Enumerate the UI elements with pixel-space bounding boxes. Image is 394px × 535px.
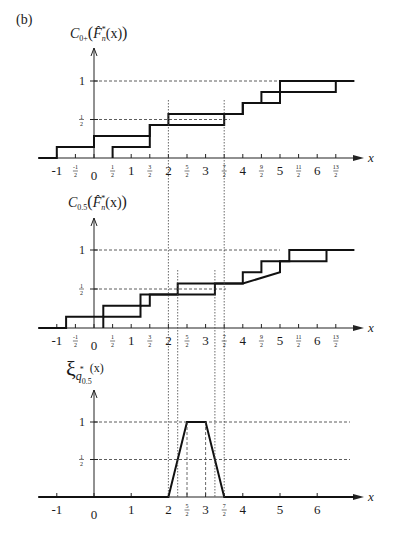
svg-text:2: 2	[111, 342, 114, 348]
x-tick-label: 13	[333, 164, 339, 170]
figure: x112-1-1201213225237249251126132x112-1-1…	[0, 0, 394, 535]
chart-c05: x112-1-1201213225237249251126132	[38, 218, 374, 353]
svg-text:2: 2	[186, 172, 189, 178]
x-tick-label: 1	[111, 164, 114, 170]
svg-text:2: 2	[334, 172, 337, 178]
svg-text:2: 2	[334, 342, 337, 348]
x-tick-label: 3	[148, 334, 151, 340]
x-tick-label: 9	[260, 164, 263, 170]
y-tick-label: 1	[80, 114, 83, 120]
x-axis-label: x	[367, 320, 374, 335]
y-tick-label: 1	[79, 243, 85, 257]
x-tick-label: 3	[202, 163, 209, 178]
x-tick-label: -1	[51, 502, 62, 517]
svg-text:2: 2	[223, 511, 226, 517]
svg-text:2: 2	[80, 461, 83, 467]
x-tick-label: 5	[277, 502, 284, 517]
x-axis-arrow-icon	[353, 155, 364, 161]
x-tick-label: -1	[51, 163, 62, 178]
x-tick-label: 5	[186, 164, 189, 170]
x-tick-label: 0	[91, 507, 98, 522]
svg-text:2: 2	[297, 342, 300, 348]
x-tick-label: -1	[51, 333, 62, 348]
svg-text:2: 2	[260, 172, 263, 178]
x-tick-label: 5	[277, 163, 284, 178]
y-tick-label: 1	[79, 74, 85, 88]
svg-text:2: 2	[148, 172, 151, 178]
x-tick-label: 7	[223, 503, 226, 509]
svg-text:2: 2	[74, 172, 77, 178]
x-tick-label: 13	[333, 334, 339, 340]
x-tick-label: 1	[111, 334, 114, 340]
x-tick-label: 1	[128, 502, 135, 517]
svg-text:2: 2	[74, 342, 77, 348]
y-tick-label: 1	[79, 415, 85, 429]
x-axis-label: x	[367, 489, 374, 504]
chart-title-xi: ξq0.5*(x)	[66, 356, 104, 386]
x-tick-label: 3	[202, 333, 209, 348]
x-tick-label: 9	[260, 334, 263, 340]
x-tick-label: 0	[91, 338, 98, 353]
svg-text:2: 2	[80, 290, 83, 296]
y-tick-label: 1	[80, 454, 83, 460]
x-tick-label: 5	[186, 334, 189, 340]
x-axis-label: x	[367, 150, 374, 165]
chart-title-c05: C0.5(F̂*n(x))	[68, 193, 127, 212]
x-axis-arrow-icon	[353, 325, 364, 331]
svg-text:2: 2	[111, 172, 114, 178]
x-tick-label: 4	[240, 163, 247, 178]
chart-title-c0plus: C0+(F̂*n(x))	[70, 24, 127, 43]
x-tick-label: 3	[202, 502, 209, 517]
x-tick-label: 6	[314, 502, 321, 517]
x-tick-label: 4	[240, 333, 247, 348]
x-tick-label: 5	[277, 333, 284, 348]
x-tick-label: 1	[128, 333, 135, 348]
svg-text:2: 2	[260, 342, 263, 348]
x-tick-label: 3	[148, 164, 151, 170]
x-tick-label: -1	[73, 164, 78, 170]
chart-xi: x112-101252372456	[38, 390, 374, 522]
x-tick-label: 6	[314, 163, 321, 178]
x-tick-label: 11	[296, 164, 302, 170]
x-tick-label: 11	[296, 334, 302, 340]
x-tick-label: 1	[128, 163, 135, 178]
chart-c0plus: x112-1-1201213225237249251126132	[38, 48, 374, 183]
x-tick-label: 5	[186, 503, 189, 509]
x-tick-label: -1	[73, 334, 78, 340]
y-tick-label: 1	[80, 283, 83, 289]
x-tick-label: 0	[91, 168, 98, 183]
svg-text:2: 2	[80, 121, 83, 127]
svg-text:2: 2	[186, 511, 189, 517]
x-tick-label: 2	[165, 502, 172, 517]
svg-text:2: 2	[297, 172, 300, 178]
x-tick-label: 6	[314, 333, 321, 348]
x-tick-label: 4	[240, 502, 247, 517]
x-axis-arrow-icon	[353, 494, 364, 500]
svg-text:2: 2	[148, 342, 151, 348]
svg-text:2: 2	[186, 342, 189, 348]
